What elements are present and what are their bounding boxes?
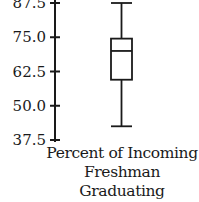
x-axis-label-line-3: in 4 Years (45, 201, 199, 202)
y-tick-label: 50.0 (13, 97, 46, 115)
y-tick-label: 87.5 (13, 0, 46, 12)
y-tick-label: 37.5 (13, 131, 46, 149)
y-axis-ticks: 87.575.062.550.037.5 (13, 0, 60, 149)
y-tick-label: 62.5 (13, 63, 46, 81)
iqr-box (111, 39, 132, 80)
x-axis-label-line-1: Percent of Incoming (45, 144, 199, 163)
x-axis-label-line-2: Freshman Graduating (45, 163, 199, 201)
box-and-whiskers (111, 3, 132, 126)
x-axis-label: Percent of Incoming Freshman Graduating … (45, 144, 199, 202)
y-tick-label: 75.0 (13, 28, 46, 46)
